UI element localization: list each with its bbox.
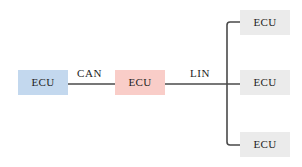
node-ecu-lin-middle[interactable]: ECU (240, 70, 290, 95)
node-ecu-central-pink[interactable]: ECU (115, 70, 165, 95)
node-label: ECU (253, 77, 276, 88)
bus-label-text: LIN (190, 67, 210, 79)
node-ecu-lin-top[interactable]: ECU (240, 10, 290, 35)
bus-label-text: CAN (77, 67, 102, 79)
node-label: ECU (31, 77, 54, 88)
ecu-network-diagram: ECU CAN ECU LIN ECU ECU ECU (0, 0, 302, 167)
node-label: ECU (253, 17, 276, 28)
node-label: ECU (253, 139, 276, 150)
bus-label-lin: LIN (190, 68, 210, 79)
node-label: ECU (128, 77, 151, 88)
bus-label-can: CAN (77, 68, 102, 79)
node-ecu-lin-bottom[interactable]: ECU (240, 132, 290, 157)
node-ecu-gateway-blue[interactable]: ECU (18, 70, 68, 95)
